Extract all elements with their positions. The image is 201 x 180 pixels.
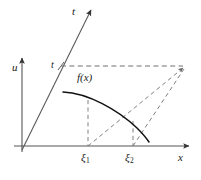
t-value-label: t bbox=[51, 60, 54, 70]
t-axis-label: t bbox=[72, 6, 75, 17]
xi-2-label: ξ2 bbox=[125, 152, 134, 165]
xi-1-base: ξ bbox=[81, 151, 86, 163]
xi-2-subscript: 2 bbox=[130, 156, 134, 165]
function-label: f(x) bbox=[77, 72, 92, 83]
dashed-ray-xi2-to-corner bbox=[133, 69, 184, 146]
dashed-ray-origin-to-corner bbox=[88, 68, 183, 146]
xi-1-subscript: 1 bbox=[86, 156, 90, 165]
figure-canvas: t u t f(x) ξ1 ξ2 x bbox=[0, 0, 201, 180]
function-curve bbox=[63, 92, 149, 142]
xi-1-label: ξ1 bbox=[81, 152, 90, 165]
u-axis-label: u bbox=[12, 62, 18, 73]
xi-2-base: ξ bbox=[125, 151, 130, 163]
x-axis-label: x bbox=[178, 152, 183, 163]
diagram-svg bbox=[0, 0, 201, 180]
